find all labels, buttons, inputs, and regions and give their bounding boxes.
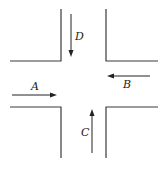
road-corner-top-right xyxy=(106,9,158,61)
arrow-left-icon xyxy=(107,74,114,79)
arrow-right-icon xyxy=(50,93,57,98)
road-corner-top-left xyxy=(10,9,61,61)
intersection-diagram: A B C D xyxy=(0,0,160,171)
vehicle-c-arrow: C xyxy=(81,109,95,153)
label-a: A xyxy=(30,80,39,93)
road-corner-bottom-right xyxy=(106,107,158,158)
arrow-up-icon xyxy=(90,109,95,116)
vehicle-a-arrow: A xyxy=(12,80,57,98)
arrow-down-icon xyxy=(69,50,74,57)
vehicle-d-arrow: D xyxy=(69,14,85,57)
label-d: D xyxy=(74,30,84,43)
road-corner-bottom-left xyxy=(10,107,61,158)
label-b: B xyxy=(122,78,131,91)
label-c: C xyxy=(81,126,90,139)
vehicle-b-arrow: B xyxy=(107,74,150,92)
